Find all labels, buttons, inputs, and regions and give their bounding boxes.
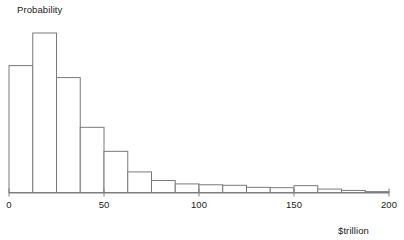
x-tick-label: 100 [191,199,207,210]
histogram-bar [57,78,81,193]
histogram-bar [175,184,199,193]
histogram-bar [247,187,271,192]
histogram-bar [365,192,389,193]
histogram-bar [342,190,366,192]
histogram-bar [318,189,342,192]
x-tick-label: 50 [99,199,110,210]
x-tick-label: 150 [286,199,302,210]
histogram-bar [9,66,33,193]
histogram-bar [270,188,294,193]
histogram-bar [80,127,104,192]
x-axis-label: $trillion [338,225,369,236]
histogram-bar [223,185,247,192]
x-tick-label: 0 [6,199,11,210]
histogram-bar [104,151,128,192]
histogram-bar [128,172,152,193]
x-tick-label: 200 [381,199,397,210]
histogram-bar [152,180,176,192]
histogram-bar [294,186,318,193]
histogram-bars [9,33,389,193]
histogram-figure: Probability 050100150200 $trillion [0,0,404,240]
histogram-bar [199,185,223,193]
histogram-bar [33,33,57,193]
